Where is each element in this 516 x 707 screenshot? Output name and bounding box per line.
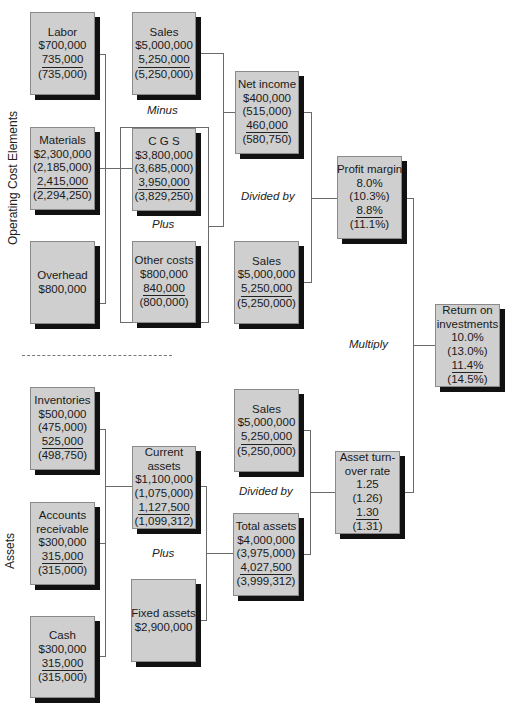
connector xyxy=(206,553,233,554)
section-divider xyxy=(22,355,172,356)
box-title: C G S xyxy=(148,135,179,149)
box-profit-margin: Profit margin 8.0% (10.3%) 8.8% (11.1%) xyxy=(337,156,402,239)
box-title: Other costs xyxy=(135,254,194,268)
box-value: $400,000 xyxy=(243,92,291,106)
operator-multiply: Multiply xyxy=(349,338,388,350)
box-value: 8.8% xyxy=(356,204,382,219)
box-title: Net income xyxy=(238,78,296,92)
box-value: $500,000 xyxy=(39,408,87,422)
box-sales-top: Sales $5,000,000 5,250,000 (5,250,000) xyxy=(132,12,196,95)
box-value: (5,250,000) xyxy=(237,445,296,459)
box-net-income: Net income $400,000 (515,000) 460,000 (5… xyxy=(235,71,299,154)
box-title: investments xyxy=(437,318,498,332)
box-current-assets: Current assets $1,100,000 (1,075,000) 1,… xyxy=(132,446,196,529)
box-value: 3,950,000 xyxy=(138,176,189,191)
connector xyxy=(299,282,312,283)
connector xyxy=(208,226,224,227)
box-total-assets: Total assets $4,000,000 (3,975,000) 4,02… xyxy=(233,513,299,596)
connector xyxy=(310,492,335,493)
box-value: 1.30 xyxy=(356,506,378,521)
box-title: Current xyxy=(145,446,183,460)
section-label-assets: Assets xyxy=(3,531,17,571)
box-value: $3,800,000 xyxy=(135,149,193,163)
box-value: (315,000) xyxy=(38,564,87,578)
box-materials: Materials $2,300,000 (2,185,000) 2,415,0… xyxy=(30,127,95,210)
box-value: (3,685,000) xyxy=(135,162,194,176)
connector xyxy=(223,53,224,227)
connector xyxy=(299,554,311,555)
operator-minus: Minus xyxy=(147,104,178,116)
box-value: $5,000,000 xyxy=(135,39,193,53)
box-asset-turnover-rate: Asset turn- over rate 1.25 (1.26) 1.30 (… xyxy=(335,451,400,534)
box-title: assets xyxy=(147,460,180,474)
box-title: Asset turn- xyxy=(340,451,396,465)
box-value: (498,750) xyxy=(38,449,87,463)
box-title: over rate xyxy=(345,465,390,479)
box-value: (1,099,312) xyxy=(135,515,194,529)
connector xyxy=(96,656,106,657)
box-value: 840,000 xyxy=(143,282,185,297)
box-other-costs: Other costs $800,000 840,000 (800,000) xyxy=(132,241,196,323)
section-label-operating-cost: Operating Cost Elements xyxy=(6,103,20,253)
box-value: (5,250,000) xyxy=(237,297,296,311)
box-cgs: C G S $3,800,000 (3,685,000) 3,950,000 (… xyxy=(132,128,196,211)
box-title: Accounts xyxy=(39,509,86,523)
connector xyxy=(96,303,106,304)
box-title: Return on xyxy=(442,304,493,318)
operator-plus-bottom: Plus xyxy=(152,547,174,559)
box-accounts-receivable: Accounts receivable $300,000 315,000 (31… xyxy=(30,502,95,585)
box-title: Profit margin xyxy=(337,163,402,177)
box-value: 460,000 xyxy=(246,119,288,134)
box-value: 5,250,000 xyxy=(241,282,292,297)
box-value: 315,000 xyxy=(42,657,84,672)
box-value: (315,000) xyxy=(38,671,87,685)
box-title: Materials xyxy=(39,134,86,148)
box-value: $800,000 xyxy=(140,268,188,282)
box-value: $5,000,000 xyxy=(238,416,296,430)
box-title: Fixed assets xyxy=(131,607,196,621)
box-sales-mid: Sales $5,000,000 5,250,000 (5,250,000) xyxy=(234,241,299,324)
box-value: (580,750) xyxy=(242,133,291,147)
box-value: 2,415,000 xyxy=(37,175,88,190)
box-value: (2,185,000) xyxy=(33,161,92,175)
box-value: $300,000 xyxy=(39,643,87,657)
box-value: 1,127,500 xyxy=(138,501,189,516)
box-inventories: Inventories $500,000 (475,000) 525,000 (… xyxy=(30,387,95,470)
box-sales-bottom: Sales $5,000,000 5,250,000 (5,250,000) xyxy=(234,389,299,472)
box-overhead: Overhead $800,000 xyxy=(30,241,95,324)
connector xyxy=(413,345,435,346)
box-value: 8.0% xyxy=(356,177,382,191)
box-value: (3,829,250) xyxy=(135,190,194,204)
box-value: $1,100,000 xyxy=(135,473,193,487)
box-value: (14.5%) xyxy=(447,373,487,387)
box-value: $5,000,000 xyxy=(238,268,296,282)
box-value: (10.3%) xyxy=(349,190,389,204)
operator-plus-top: Plus xyxy=(152,218,174,230)
connector xyxy=(96,543,106,544)
box-value: 1.25 xyxy=(356,478,378,492)
box-value: 4,027,500 xyxy=(240,561,291,576)
box-value: (11.1%) xyxy=(350,218,389,232)
box-value: (1.26) xyxy=(352,492,382,506)
box-value: $800,000 xyxy=(39,283,87,297)
box-value: 5,250,000 xyxy=(138,53,189,68)
box-value: (3,975,000) xyxy=(237,547,296,561)
box-value: (735,000) xyxy=(38,68,87,82)
box-title: Total assets xyxy=(236,520,297,534)
box-return-on-investments: Return on investments 10.0% (13.0%) 11.4… xyxy=(435,304,500,387)
connector xyxy=(105,486,132,487)
box-labor: Labor $700,000 735,000 (735,000) xyxy=(30,12,95,95)
box-value: 11.4% xyxy=(452,359,484,374)
box-title: Sales xyxy=(252,255,281,269)
box-value: 525,000 xyxy=(42,435,84,450)
box-value: $2,900,000 xyxy=(135,621,193,635)
box-title: Labor xyxy=(48,26,77,40)
box-value: (5,250,000) xyxy=(135,68,194,82)
box-value: $2,300,000 xyxy=(34,148,92,162)
box-value: (800,000) xyxy=(139,296,188,310)
operator-divided-by-bottom: Divided by xyxy=(239,485,293,497)
box-value: (13.0%) xyxy=(447,345,487,359)
box-value: (475,000) xyxy=(38,421,87,435)
box-title: receivable xyxy=(36,523,88,537)
box-value: 315,000 xyxy=(42,550,84,565)
